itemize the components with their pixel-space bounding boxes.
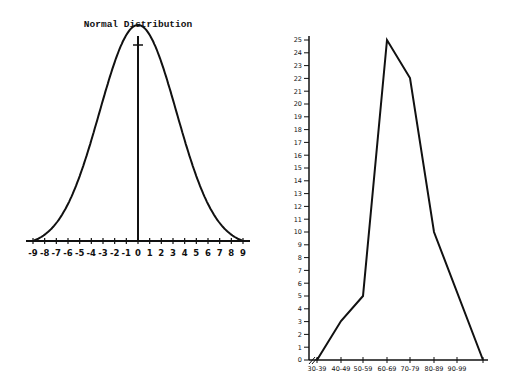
x-tick-label: 1	[147, 248, 153, 258]
y-tick-label: 5	[298, 292, 302, 300]
y-tick-label: 15	[294, 164, 302, 172]
x-tick-label: 90-99	[448, 365, 467, 373]
y-tick-label: 17	[294, 139, 302, 147]
y-tick-label: 22	[294, 75, 302, 83]
y-tick-label: 25	[294, 36, 302, 44]
y-tick-label: 1	[298, 344, 302, 352]
y-tick-label: 3	[298, 318, 302, 326]
x-tick-label: 3	[170, 248, 176, 258]
x-tick-label: 40-49	[332, 365, 351, 373]
y-tick-label: 23	[294, 62, 302, 70]
frequency-polygon-chart: 0123456789101112131415161718192021222324…	[294, 36, 488, 373]
x-tick-label: 2	[158, 248, 164, 258]
y-axis-ticks: 0123456789101112131415161718192021222324…	[294, 36, 309, 364]
y-tick-label: 9	[298, 241, 302, 249]
x-tick-label: -6	[63, 248, 73, 258]
x-tick-label: -9	[28, 248, 38, 258]
x-tick-label: -8	[40, 248, 50, 258]
y-tick-label: 24	[294, 49, 302, 57]
x-tick-label: 50-59	[354, 365, 373, 373]
y-tick-label: 11	[294, 216, 302, 224]
y-tick-label: 2	[298, 331, 302, 339]
x-tick-label: 0	[135, 248, 141, 258]
x-tick-label: 9	[240, 248, 246, 258]
x-tick-label: 60-69	[378, 365, 397, 373]
y-tick-label: 16	[294, 152, 302, 160]
x-tick-label: 8	[228, 248, 234, 258]
y-tick-label: 13	[294, 190, 302, 198]
y-tick-label: 0	[298, 356, 302, 364]
x-tick-label: 80-89	[425, 365, 444, 373]
figure: Normal Distribution -9-8-7-6-5-4-3-2-101…	[0, 0, 515, 388]
y-tick-label: 6	[298, 280, 302, 288]
y-tick-label: 21	[294, 88, 302, 96]
x-tick-label: 70-79	[401, 365, 420, 373]
x-tick-label: -5	[75, 248, 85, 258]
normal-distribution-chart: Normal Distribution -9-8-7-6-5-4-3-2-101…	[26, 19, 250, 258]
frequency-polygon-line	[317, 40, 483, 360]
y-tick-label: 19	[294, 113, 302, 121]
x-tick-label: -1	[122, 248, 132, 258]
x-tick-label: 30-39	[308, 365, 327, 373]
x-tick-label: -4	[87, 248, 97, 258]
y-tick-label: 12	[294, 203, 302, 211]
y-tick-label: 7	[298, 267, 302, 275]
y-tick-label: 10	[294, 228, 302, 236]
x-tick-label: 4	[182, 248, 188, 258]
x-tick-label: 7	[217, 248, 223, 258]
y-tick-label: 20	[294, 100, 302, 108]
y-tick-label: 14	[294, 177, 302, 185]
x-tick-label: 5	[193, 248, 199, 258]
y-tick-label: 8	[298, 254, 302, 262]
x-tick-label: -3	[98, 248, 108, 258]
y-tick-label: 4	[298, 305, 302, 313]
x-tick-label: 6	[205, 248, 211, 258]
y-tick-label: 18	[294, 126, 302, 134]
x-tick-label: -2	[110, 248, 120, 258]
x-tick-label: -7	[52, 248, 62, 258]
